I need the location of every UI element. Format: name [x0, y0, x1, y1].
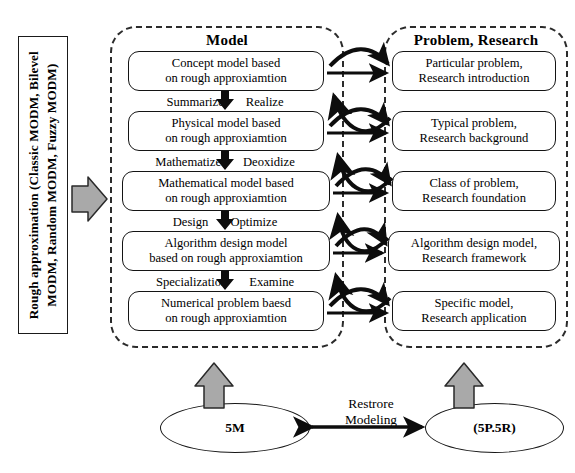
transition-1-right: Realize — [246, 95, 284, 110]
problem-node-particular[interactable]: Particular problem, Research introductio… — [392, 51, 556, 91]
problem-node-typical[interactable]: Typical problem, Research background — [392, 111, 556, 151]
transition-3-left: Design — [173, 215, 209, 230]
ellipse-5m[interactable]: 5M — [160, 403, 310, 453]
problem-node-algorithm-design-line1: Algorithm design model, — [411, 236, 537, 251]
problem-node-class-line2: Research foundation — [422, 191, 526, 206]
model-node-algorithm-design-line1: Algorithm design model — [149, 236, 303, 251]
arc-mathematical-to-class — [336, 169, 390, 186]
problem-node-specific-line2: Research application — [421, 311, 526, 326]
transition-1-left: Summarize — [166, 95, 223, 110]
model-node-algorithm-design[interactable]: Algorithm design model based on rough ap… — [122, 231, 330, 271]
gray-right-arrow-icon — [72, 177, 107, 221]
problem-node-typical-line1: Typical problem, — [420, 116, 529, 131]
restore-line-1: Restrore — [317, 396, 425, 412]
caption-line-1: Rough approximation (Classic MODM, Bilev… — [26, 51, 41, 319]
model-node-physical[interactable]: Physical model based on rough approxiamt… — [128, 111, 324, 151]
model-node-mathematical-line2: on rough approxiamtion — [158, 191, 294, 206]
restore-line-2: Modeling — [317, 412, 425, 428]
model-node-physical-line2: on rough approxiamtion — [165, 131, 287, 146]
ellipse-5m-label: 5M — [225, 420, 245, 436]
problem-node-algorithm-design-line2: Research framework — [411, 251, 537, 266]
problem-node-particular-line2: Research introduction — [419, 71, 530, 86]
transition-label-3: Design Optimize — [118, 214, 332, 231]
model-node-concept-line1: Concept model based — [165, 56, 287, 71]
model-node-mathematical[interactable]: Mathematical model based on rough approx… — [122, 171, 330, 211]
caption-line-2: MODM, Random MODM, Fuzzy MODM) — [44, 63, 59, 306]
problem-group-title: Problem, Research — [386, 32, 566, 49]
model-group-title: Model — [112, 32, 342, 49]
model-node-concept-line2: on rough approxiamtion — [165, 71, 287, 86]
restore-modeling-label: Restrore Modeling — [317, 396, 425, 429]
rough-approximation-caption-box: Rough approximation (Classic MODM, Bilev… — [18, 36, 68, 334]
model-node-physical-line1: Physical model based — [165, 116, 287, 131]
transition-4-right: Examine — [249, 275, 294, 290]
ellipse-5p5r-label: (5P.5R) — [473, 420, 516, 436]
diagram-canvas: Rough approximation (Classic MODM, Bilev… — [0, 0, 575, 473]
transition-4-left: Specialization — [156, 275, 227, 290]
problem-node-class-line1: Class of problem, — [422, 176, 526, 191]
transition-2-right: Deoxidize — [243, 155, 295, 170]
model-node-numerical-problem-line2: on rough approxiamtion — [161, 311, 291, 326]
transition-label-4: Specialization Examine — [118, 274, 332, 291]
model-node-concept[interactable]: Concept model based on rough approxiamti… — [128, 51, 324, 91]
model-node-algorithm-design-line2: based on rough approxiamtion — [149, 251, 303, 266]
transition-label-2: Mathematize Deoxidize — [118, 154, 332, 171]
gray-up-arrow-right — [445, 363, 483, 408]
ellipse-5p5r[interactable]: (5P.5R) — [425, 403, 564, 453]
transition-2-left: Mathematize — [155, 155, 221, 170]
arc-framework-to-mathematical — [338, 216, 388, 251]
transition-3-right: Optimize — [230, 215, 277, 230]
problem-node-class[interactable]: Class of problem, Research foundation — [392, 171, 556, 211]
model-node-numerical-problem[interactable]: Numerical problem baesd on rough approxi… — [128, 291, 324, 331]
model-node-mathematical-line1: Mathematical model based — [158, 176, 294, 191]
problem-node-typical-line2: Research background — [420, 131, 529, 146]
gray-up-arrow-left — [195, 363, 233, 408]
rough-approximation-caption-text: Rough approximation (Classic MODM, Bilev… — [25, 51, 61, 319]
arc-specific-to-algorithm — [336, 276, 390, 311]
problem-node-algorithm-design[interactable]: Algorithm design model, Research framewo… — [388, 231, 560, 271]
problem-node-specific-line1: Specific model, — [421, 296, 526, 311]
transition-label-1: Summarize Realize — [118, 94, 332, 111]
problem-node-particular-line1: Particular problem, — [419, 56, 530, 71]
problem-node-specific[interactable]: Specific model, Research application — [392, 291, 556, 331]
model-node-numerical-problem-line1: Numerical problem baesd — [161, 296, 291, 311]
